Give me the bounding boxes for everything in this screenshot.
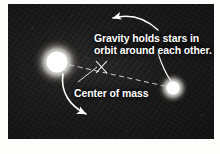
orbit-arrow <box>113 16 158 30</box>
center-of-mass-annotation: Center of mass <box>74 87 148 99</box>
primary-star <box>32 37 82 87</box>
diagram-overlay <box>8 4 214 139</box>
gravity-annotation: Gravity holds stars in orbit around each… <box>94 32 212 56</box>
secondary-star <box>157 72 189 104</box>
gravity-annotation-line-1: Gravity holds stars in <box>94 32 212 44</box>
figure-root: Gravity holds stars in orbit around each… <box>0 0 220 154</box>
astronomy-photo: Gravity holds stars in orbit around each… <box>8 4 214 139</box>
gravity-annotation-line-2: orbit around each other. <box>94 44 212 56</box>
center-of-mass-marker <box>96 61 107 73</box>
